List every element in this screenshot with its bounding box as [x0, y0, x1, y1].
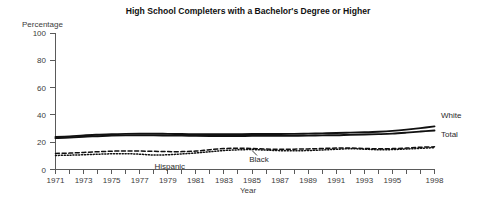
- x-axis-ticks: 1971197319751977197919811983198519871989…: [47, 170, 444, 185]
- x-tick-label: 1991: [327, 176, 345, 185]
- y-axis-label: Percentage: [22, 20, 63, 29]
- series-label-hispanic: Hispanic: [154, 162, 185, 171]
- x-tick-label: 1977: [131, 176, 149, 185]
- chart-container: High School Completers with a Bachelor's…: [0, 0, 496, 202]
- chart-title: High School Completers with a Bachelor's…: [126, 6, 371, 16]
- series-label-white: White: [441, 111, 462, 120]
- x-tick-label: 1993: [355, 176, 373, 185]
- y-tick-label: 100: [33, 29, 47, 38]
- x-tick-label: 1987: [271, 176, 289, 185]
- x-tick-label: 1975: [103, 176, 121, 185]
- x-tick-label: 1985: [243, 176, 261, 185]
- x-tick-label: 1998: [426, 176, 444, 185]
- x-tick-label: 1995: [383, 176, 401, 185]
- y-tick-label: 0: [42, 166, 47, 175]
- y-tick-label: 60: [37, 84, 46, 93]
- x-tick-label: 1979: [159, 176, 177, 185]
- y-axis-ticks: 020406080100: [33, 29, 56, 175]
- y-tick-label: 80: [37, 56, 46, 65]
- line-chart: High School Completers with a Bachelor's…: [0, 0, 496, 202]
- y-tick-label: 40: [37, 111, 46, 120]
- x-axis-label: Year: [240, 186, 257, 195]
- x-tick-label: 1989: [299, 176, 317, 185]
- x-tick-label: 1971: [47, 176, 65, 185]
- y-tick-label: 20: [37, 138, 46, 147]
- x-tick-label: 1983: [215, 176, 233, 185]
- x-tick-label: 1973: [75, 176, 93, 185]
- series-label-total: Total: [441, 130, 458, 139]
- series-lines: [56, 126, 435, 155]
- series-label-black: Black: [249, 155, 270, 164]
- series-annotations: WhiteTotalHispanicBlack: [154, 111, 462, 170]
- x-tick-label: 1981: [187, 176, 205, 185]
